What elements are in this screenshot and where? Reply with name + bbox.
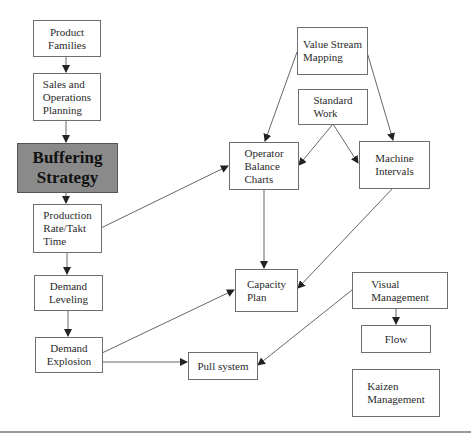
node-pull-system: Pull system [188, 352, 258, 380]
node-label: Operator Balance Charts [244, 147, 283, 186]
node-capacity-plan: Capacity Plan [235, 269, 298, 312]
diagram-canvas: Product Families Sales and Operations Pl… [0, 0, 471, 435]
node-buffering-strategy: Buffering Strategy [17, 143, 118, 193]
node-label: Standard Work [313, 94, 352, 120]
node-label: Buffering Strategy [33, 148, 103, 188]
bottom-rule-divider [0, 431, 471, 433]
node-label: Demand Leveling [49, 280, 88, 306]
node-flow: Flow [361, 325, 431, 353]
node-visual-management: Visual Management [352, 272, 448, 309]
node-demand-leveling: Demand Leveling [34, 275, 103, 311]
node-label: Sales and Operations Planning [43, 78, 91, 117]
edge-production-to-operator [101, 166, 228, 228]
node-label: Visual Management [371, 278, 428, 304]
node-label: Pull system [197, 360, 248, 373]
node-standard-work: Standard Work [298, 89, 368, 125]
edge-standard-to-machine [333, 124, 358, 163]
edge-explosion-to-capacity [102, 290, 234, 353]
node-production-rate: Production Rate/Takt Time [33, 204, 102, 253]
node-sales-operations-planning: Sales and Operations Planning [33, 73, 101, 121]
node-value-stream-mapping: Value Stream Mapping [297, 27, 368, 75]
node-product-families: Product Families [33, 20, 101, 57]
edge-standard-to-operator [299, 124, 333, 165]
node-label: Capacity Plan [247, 278, 286, 304]
node-label: Demand Explosion [47, 342, 92, 368]
node-label: Product Families [48, 26, 86, 52]
node-machine-intervals: Machine Intervals [359, 141, 430, 189]
node-kaizen-management: Kaizen Management [352, 369, 440, 417]
node-demand-explosion: Demand Explosion [35, 337, 103, 373]
edge-valuestream-to-operator [265, 52, 297, 141]
node-label: Production Rate/Takt Time [43, 209, 91, 248]
node-label: Kaizen Management [367, 380, 424, 406]
edge-valuestream-to-machine [367, 52, 393, 140]
node-label: Flow [385, 333, 408, 346]
node-label: Value Stream Mapping [303, 38, 362, 64]
node-label: Machine Intervals [375, 152, 413, 178]
node-operator-balance-charts: Operator Balance Charts [229, 142, 299, 190]
